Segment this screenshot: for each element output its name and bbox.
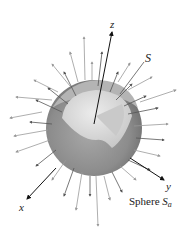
- sphere-label: Sphere Sa: [129, 195, 172, 209]
- x-axis-label: x: [18, 201, 24, 213]
- y-axis: [130, 158, 164, 180]
- flux-diagram: z y x S Sphere Sa: [0, 0, 188, 238]
- surface-s-label: S: [145, 51, 151, 65]
- y-axis-label: y: [165, 180, 171, 192]
- x-axis: [27, 168, 56, 199]
- s-leader-line: [120, 62, 144, 94]
- z-axis-label: z: [109, 18, 115, 30]
